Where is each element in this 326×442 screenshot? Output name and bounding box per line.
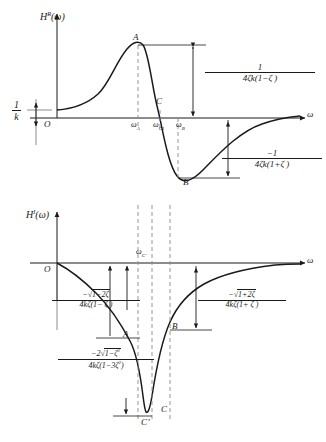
bottom-tick-omega-cprime: ωC’	[136, 248, 147, 259]
top-tick-omega-a: ωA	[131, 121, 140, 132]
top-point-a-label: A	[133, 33, 139, 42]
top-origin-label: O	[44, 120, 51, 129]
bottom-y-axis-label: HI(ω)	[26, 209, 49, 220]
bottom-response-curve	[57, 263, 300, 412]
top-point-b-label: B	[183, 178, 189, 187]
top-tick-omega-b: ωB	[176, 121, 185, 132]
top-offset-fraction: 1 k	[12, 99, 21, 122]
bottom-origin-label: O	[44, 265, 51, 274]
bottom-right-amplitude-formula: −√1+2ζ 4kζ(1+ ζ )	[198, 291, 286, 310]
top-x-axis-label: ω	[307, 110, 313, 119]
bottom-x-axis-label: ω	[307, 256, 313, 265]
top-y-axis-label: HR(ω)	[40, 11, 65, 22]
bottom-left-amplitude-formula: −√1−2ζ 4kζ(1− ζ )	[52, 291, 140, 310]
bottom-point-b-label: B	[172, 322, 178, 331]
bottom-point-cprime-label: C’	[141, 418, 150, 427]
figure-canvas: HR(ω) ω O 1 k A C B ωA ωC1 ωB 1 4ζk(1−ζ …	[0, 0, 326, 442]
bottom-resonance-amplitude-formula: −2√1−ζ2 4kζ(1−3ζ2)	[58, 348, 154, 370]
top-trough-amplitude-formula: −1 4ζk(1+ζ )	[222, 148, 322, 169]
bottom-point-c-label: C	[161, 405, 167, 414]
top-point-c-label: C	[156, 97, 162, 106]
top-tick-omega-c: ωC1	[153, 121, 164, 132]
top-peak-amplitude-formula: 1 4ζk(1−ζ )	[205, 62, 315, 83]
bottom-point-a-label: A	[123, 330, 129, 339]
